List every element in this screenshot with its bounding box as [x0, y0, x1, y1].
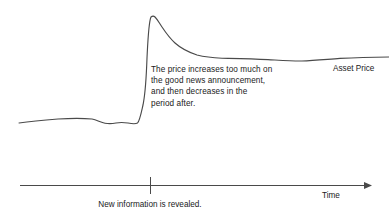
- event-caption: New information is revealed.: [0, 200, 300, 209]
- asset-price-series-label: Asset Price: [333, 64, 374, 73]
- diagram-canvas: [0, 0, 389, 221]
- asset-price-diagram: The price increases too much on the good…: [0, 0, 389, 221]
- price-behavior-annotation: The price increases too much on the good…: [151, 64, 327, 109]
- time-axis-label: Time: [322, 191, 340, 200]
- time-axis-arrowhead: [364, 182, 372, 189]
